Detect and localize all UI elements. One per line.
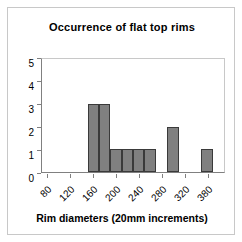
x-tick-label-160: 160 [77,184,100,207]
bar-160 [88,104,99,172]
bar-slot-300 [167,59,178,172]
y-tick-label-0: 0 [12,174,34,184]
x-tick-label-120: 120 [54,184,77,207]
bar-slot-140 [76,59,87,172]
y-tick-label-2: 2 [12,128,34,138]
y-tick-label-4: 4 [12,82,34,92]
bars-layer [42,59,224,172]
bar-240 [133,149,144,172]
bar-slot-100 [53,59,64,172]
x-tick-mark-160 [93,174,94,178]
x-tick-mark-120 [70,174,71,178]
bar-slot-240 [133,59,144,172]
bar-slot-260 [144,59,155,172]
bar-slot-340 [190,59,201,172]
bar-260 [144,149,155,172]
x-tick-mark-80 [47,174,48,178]
y-tick-label-1: 1 [12,151,34,161]
bar-200 [110,149,121,172]
x-tick-label-380: 380 [192,184,215,207]
bar-360 [201,149,212,172]
bar-slot-80 [42,59,53,172]
x-tick-label-240: 240 [123,184,146,207]
x-tick-label-280: 280 [146,184,169,207]
plot-area [41,58,225,173]
chart-title: Occurrence of flat top rims [8,21,236,33]
chart-container: Occurrence of flat top rims 0 1 2 3 4 5 [7,7,235,235]
y-tick-label-5: 5 [12,59,34,69]
bar-220 [122,149,133,172]
bar-180 [99,104,110,172]
x-tick-mark-380 [208,174,209,178]
x-tick-mark-240 [139,174,140,178]
bar-slot-160 [88,59,99,172]
bar-slot-360 [201,59,212,172]
x-tick-mark-320 [185,174,186,178]
x-tick-label-80: 80 [31,184,54,207]
bar-300 [167,127,178,172]
x-axis-title: Rim diameters (20mm increments) [8,212,236,224]
x-tick-label-200: 200 [100,184,123,207]
bar-slot-280 [156,59,167,172]
bar-slot-180 [99,59,110,172]
bar-slot-380 [213,59,224,172]
bar-slot-320 [179,59,190,172]
x-tick-mark-280 [162,174,163,178]
bar-slot-220 [122,59,133,172]
y-tick-label-3: 3 [12,105,34,115]
y-tick-mark-0 [37,173,41,174]
bar-slot-120 [65,59,76,172]
x-tick-mark-200 [116,174,117,178]
x-tick-label-320: 320 [169,184,192,207]
bar-slot-200 [110,59,121,172]
